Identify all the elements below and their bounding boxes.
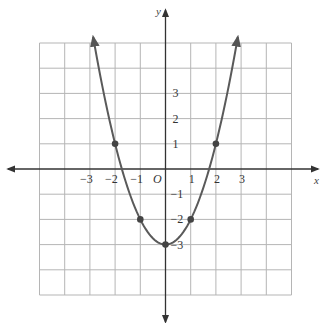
x-tick-label: 1 bbox=[189, 172, 195, 186]
x-axis-label: x bbox=[313, 174, 319, 186]
x-tick-label: −2 bbox=[105, 172, 118, 186]
data-point bbox=[187, 216, 194, 223]
y-tick-label: −2 bbox=[171, 212, 184, 226]
x-tick-label: 3 bbox=[239, 172, 245, 186]
x-tick-label: 2 bbox=[214, 172, 220, 186]
axes: x y O bbox=[8, 5, 319, 322]
x-tick-label: −3 bbox=[80, 172, 93, 186]
data-point bbox=[162, 241, 169, 248]
parabola-graph: x y O −3−2−1123321−1−2−3 bbox=[0, 0, 326, 323]
y-tick-label: −1 bbox=[171, 187, 184, 201]
y-tick-label: 3 bbox=[173, 86, 179, 100]
y-tick-label: 2 bbox=[173, 112, 179, 126]
data-point bbox=[213, 141, 220, 148]
origin-label: O bbox=[153, 172, 162, 186]
x-tick-label: −1 bbox=[130, 172, 143, 186]
y-tick-label: 1 bbox=[173, 137, 179, 151]
y-axis-label: y bbox=[155, 5, 161, 17]
data-point bbox=[112, 141, 119, 148]
data-point bbox=[137, 216, 144, 223]
